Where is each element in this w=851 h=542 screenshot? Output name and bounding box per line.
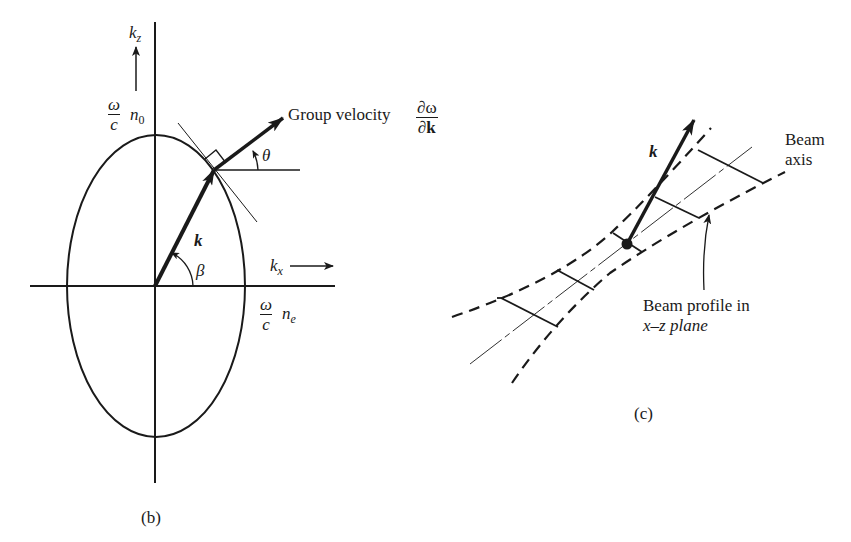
kx-label-sub: x [278,264,283,278]
k-vector-label: k [194,232,203,249]
beam-axis-line1: Beam [785,130,825,150]
wavefront-2 [557,270,594,290]
beam-axis-label: Beam axis [785,130,825,170]
group-velocity-denominator: ∂k [416,117,438,136]
beam-k-vector-label: k [649,143,658,160]
ne-fraction-numerator: ω [258,296,274,314]
group-velocity-fraction: ∂ω ∂k [415,99,439,136]
group-velocity-text: Group velocity [288,105,390,124]
kz-axis-label: kz [129,24,141,41]
group-velocity-numerator: ∂ω [415,99,439,117]
kx-axis-label: kx [270,257,283,274]
beam-profile-label: Beam profile in x–z plane [643,296,750,336]
ne-fraction-denominator: c [260,314,272,333]
k-vector-arrow [155,170,214,286]
panel-c [452,120,785,383]
wavefront-4 [655,197,699,218]
k-vector-symbol: k [194,231,203,250]
ne-label: ne [282,305,296,322]
theta-angle-arc [253,151,258,170]
panel-c-caption: (c) [634,405,653,422]
diagram-canvas [0,0,851,542]
beam-k-symbol: k [649,142,658,161]
ne-label-main: n [282,304,291,323]
beta-label: β [196,262,204,279]
beam-profile-pointer-arrow [704,215,709,290]
n0-fraction-numerator: ω [106,96,122,114]
group-velocity-label: Group velocity [288,106,390,123]
beam-axis-line2: axis [785,150,825,170]
panel-b [30,22,335,483]
n0-fraction-denominator: c [108,114,120,133]
kx-label-main: k [270,256,278,275]
kz-label-main: k [129,23,137,42]
wavefront-5 [698,150,763,183]
n0-fraction: ω c [106,96,122,133]
beam-profile-line1: Beam profile in [643,296,750,316]
n0-label-sub: 0 [139,113,145,127]
group-velocity-arrow [214,118,283,170]
ne-fraction: ω c [258,296,274,333]
ne-label-sub: e [291,312,296,326]
beam-profile-line2: x–z plane [643,316,750,336]
n0-label-main: n [130,105,139,124]
panel-b-caption: (b) [141,509,161,526]
theta-symbol: θ [262,146,270,165]
beam-upper-boundary [452,128,711,317]
beta-symbol: β [196,261,204,280]
panel-c-caption-text: (c) [634,404,653,423]
panel-b-caption-text: (b) [141,508,161,527]
beam-point-dot [622,239,633,250]
beta-angle-arc [172,253,193,286]
n0-label: n0 [130,106,145,123]
theta-label: θ [262,147,270,164]
tangent-line [178,123,257,222]
kz-label-sub: z [137,31,142,45]
